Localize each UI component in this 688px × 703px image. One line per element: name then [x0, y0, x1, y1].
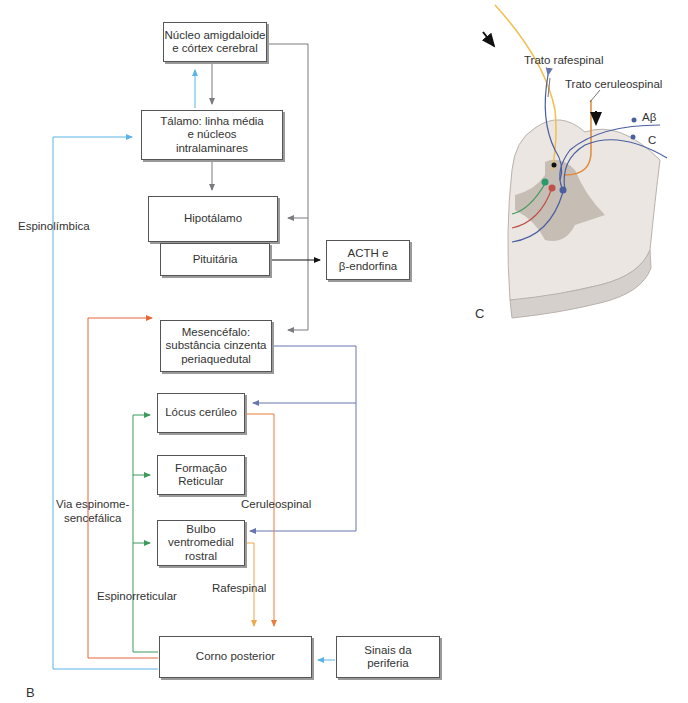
label-spinoreticular: Espinorreticular: [97, 590, 177, 604]
label-raphespinal-tract: Trato rafespinal: [524, 54, 603, 68]
box-dorsal-horn: Corno posterior: [159, 636, 312, 678]
box-amygdala-cortex: Núcleo amigdaloide e córtex cerebral: [163, 22, 267, 62]
box-pituitary: Pituitária: [160, 243, 270, 276]
box-hypothalamus: Hipotálamo: [148, 196, 278, 242]
box-reticular-formation: Formação Reticular: [157, 455, 245, 495]
box-midbrain-pag: Mesencéfalo: substância cinzenta periaqu…: [160, 320, 272, 372]
gray-pathways: [212, 44, 308, 330]
label-spinolimbic: Espinolímbica: [18, 220, 90, 234]
label-ceruleospinal-tract: Trato ceruleospinal: [565, 78, 662, 92]
box-locus-coeruleus: Lócus cerúleo: [157, 393, 245, 433]
box-thalamus: Tálamo: linha média e núcleos intralamin…: [141, 110, 283, 160]
label-abeta-fiber: Aβ: [642, 111, 656, 125]
panel-label-b: B: [26, 685, 35, 700]
spinal-cord-illustration: [483, 5, 667, 318]
label-c-fiber: C: [648, 134, 656, 148]
label-ceruleospinal: Ceruleospinal: [241, 498, 311, 512]
panel-label-c: C: [475, 306, 484, 321]
spinomesencephalic-pathway: [88, 318, 158, 658]
label-raphespinal: Rafespinal: [212, 582, 266, 596]
box-rostral-ventromedial-medulla: Bulbo ventromedial rostral: [157, 520, 245, 566]
box-acth-endorphin: ACTH e β-endorfina: [326, 240, 410, 280]
box-periphery-signals: Sinais da periferia: [336, 636, 440, 678]
label-spinomesencephalic: Via espinome- sencefálica: [56, 498, 129, 525]
spinoreticular-pathway: [133, 415, 158, 652]
